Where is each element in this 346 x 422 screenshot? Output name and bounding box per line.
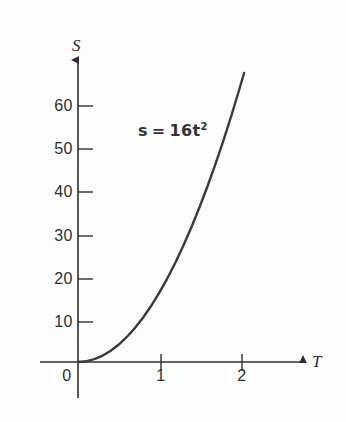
graph-figure: 60 50 40 30 20 10 0 1 2 S T s=16t2 bbox=[0, 0, 346, 422]
y-tick-label-50: 50 bbox=[39, 141, 73, 157]
x-tick-label-2: 2 bbox=[231, 368, 253, 384]
y-tick-label-20: 20 bbox=[39, 271, 73, 287]
x-axis-label: T bbox=[312, 353, 321, 370]
y-tick-label-60: 60 bbox=[39, 98, 73, 114]
x-tick-label-0: 0 bbox=[56, 368, 78, 384]
equation-exponent: 2 bbox=[200, 121, 207, 132]
y-axis-ticks bbox=[78, 106, 93, 322]
equation-lhs: s bbox=[138, 121, 148, 140]
plot-canvas bbox=[0, 0, 346, 422]
y-tick-label-30: 30 bbox=[39, 228, 73, 244]
y-axis-label: S bbox=[72, 37, 81, 54]
y-tick-label-10: 10 bbox=[39, 314, 73, 330]
equation-equals: = bbox=[152, 121, 166, 140]
y-tick-label-40: 40 bbox=[39, 184, 73, 200]
x-tick-label-1: 1 bbox=[150, 368, 172, 384]
parabola-curve bbox=[78, 73, 244, 362]
curve-equation-annotation: s=16t2 bbox=[138, 122, 208, 139]
equation-coefficient: 16 bbox=[170, 121, 193, 140]
